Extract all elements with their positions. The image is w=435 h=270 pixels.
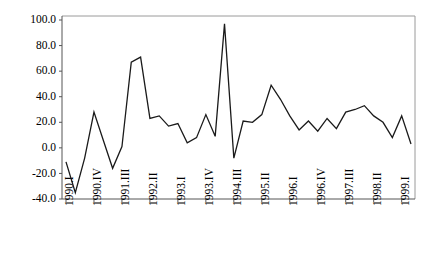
x-tick-label: 1996.I [287,176,299,206]
y-tick-label: 100.0 [30,13,56,25]
y-axis-ticks: -40.0-20.00.020.040.060.080.0100.0 [30,13,62,204]
x-tick-label: 1993.IV [203,167,215,206]
x-tick-label: 1991.III [119,168,131,206]
chart-container: -40.0-20.00.020.040.060.080.0100.0 1990.… [0,0,435,270]
x-tick-label: 1999.I [399,176,411,206]
y-tick-label: 40.0 [36,90,56,102]
x-tick-label: 1998.II [371,172,383,206]
y-tick-label: 20.0 [36,115,56,127]
x-tick-label: 1990.I [63,176,75,206]
x-tick-label: 1992.II [147,172,159,206]
x-tick-label: 1996.IV [315,167,327,206]
x-tick-label: 1990.IV [91,167,103,206]
x-tick-label: 1993.I [175,176,187,206]
y-tick-label: 0.0 [42,141,57,153]
line-chart: -40.0-20.00.020.040.060.080.0100.0 1990.… [0,0,435,270]
x-tick-label: 1994.III [231,168,243,206]
data-series-line [66,24,411,193]
x-tick-label: 1995.II [259,172,271,206]
y-tick-label: -40.0 [32,192,56,204]
y-tick-label: 80.0 [36,39,56,51]
x-axis-ticks: 1990.I1990.IV1991.III1992.II1993.I1993.I… [63,167,411,206]
y-tick-label: 60.0 [36,64,56,76]
y-tick-label: -20.0 [32,167,56,179]
x-tick-label: 1997.III [343,168,355,206]
